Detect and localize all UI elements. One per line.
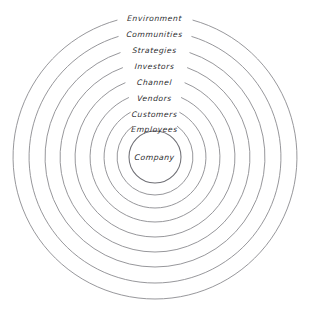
ring-label-investors: Investors [0, 62, 309, 71]
ring-label-communities: Communities [0, 30, 309, 39]
concentric-stakeholder-diagram: EnvironmentCommunitiesStrategiesInvestor… [0, 0, 309, 313]
ring-labels-layer: EnvironmentCommunitiesStrategiesInvestor… [0, 0, 309, 313]
ring-label-channel: Channel [0, 78, 309, 87]
ring-label-company: Company [0, 153, 309, 162]
ring-label-environment: Environment [0, 14, 309, 23]
ring-label-strategies: Strategies [0, 46, 309, 55]
ring-label-customers: Customers [0, 110, 309, 119]
ring-label-vendors: Vendors [0, 94, 309, 103]
ring-label-employees: Employees [0, 125, 309, 134]
